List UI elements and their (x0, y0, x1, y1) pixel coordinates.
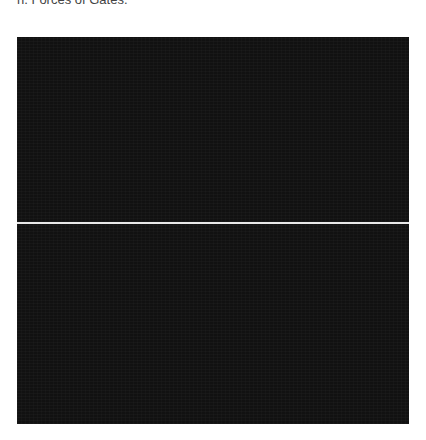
bottom-dark-panel (17, 224, 409, 424)
image-figure (17, 37, 409, 424)
figure-caption: n. Forces of Gates. (17, 0, 128, 7)
top-dark-panel (17, 37, 409, 222)
